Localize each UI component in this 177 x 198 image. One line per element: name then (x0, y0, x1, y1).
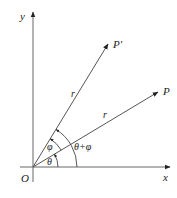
theta-plus-phi-label: θ+φ (74, 141, 92, 152)
point-p-label: P (162, 85, 170, 97)
y-axis-label: y (19, 10, 25, 22)
rotation-diagram: y x O P′ P r r θ φ θ+φ (0, 0, 177, 198)
theta-label: θ (47, 156, 52, 167)
diagram-svg: y x O P′ P r r θ φ θ+φ (0, 0, 177, 198)
x-axis-label: x (162, 171, 168, 183)
r-label-op-prime: r (71, 88, 75, 99)
point-p-prime-label: P′ (112, 38, 123, 50)
theta-arc (54, 154, 58, 167)
r-label-op: r (103, 109, 107, 120)
phi-label: φ (47, 141, 53, 152)
vector-op-prime (33, 44, 108, 167)
origin-label: O (21, 172, 29, 184)
